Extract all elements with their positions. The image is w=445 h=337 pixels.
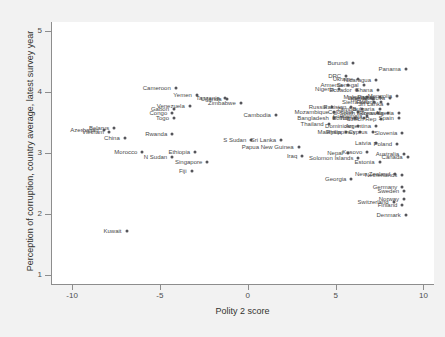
data-point-label: Solomon Islands [309,155,356,161]
data-point-marker [194,151,197,154]
data-point-marker [401,203,404,206]
data-point-marker [190,170,193,173]
data-point-marker [366,115,369,118]
x-tick-label: -10 [57,291,87,300]
data-point-marker [174,87,177,90]
scatter-chart-figure: 12345 -10-50510 BurundiPanamaDRCUkraineN… [0,0,445,337]
data-point-label: Sweden [377,188,402,194]
data-point-label: Morocco [114,149,140,155]
data-point-marker [239,102,242,105]
data-point-marker [397,112,400,115]
data-point-label: Singapore [175,159,205,165]
x-tick-mark [423,285,424,290]
data-point-marker [403,189,406,192]
data-point-label: Denmark [377,212,404,218]
y-tick-mark [45,214,51,215]
data-point-label: Kuwait [104,228,125,234]
data-point-label: China [104,135,123,141]
data-point-label: Netherlands [365,172,400,178]
data-point-label: Fiji [179,168,190,174]
data-point-label: Burundi [327,60,351,66]
data-point-label: S Sudan [223,137,249,143]
data-point-marker [301,155,304,158]
data-point-marker [107,131,110,134]
data-point-label: Papua New Guinea [242,144,297,150]
y-tick-mark [45,31,51,32]
y-axis-line [51,22,52,284]
data-point-marker [387,102,390,105]
data-point-marker [401,131,404,134]
y-tick-mark [45,275,51,276]
data-point-label: Bangladesh [297,115,332,121]
data-point-marker [280,138,283,141]
data-point-marker [396,142,399,145]
x-axis-title: Polity 2 score [51,306,434,316]
data-point-marker [188,105,191,108]
x-tick-label: 0 [233,291,263,300]
data-point-label: Estonia [355,159,378,165]
x-tick-label: -5 [145,291,175,300]
x-tick-mark [336,285,337,290]
data-point-label: Ecuador [329,87,354,93]
x-tick-label: 10 [408,291,438,300]
data-point-marker [406,156,409,159]
data-point-label: Sri Lanka [251,137,279,143]
data-point-marker [376,89,379,92]
data-point-marker [350,177,353,180]
data-point-label: Thailand [301,121,327,127]
data-point-marker [274,113,277,116]
data-point-marker [375,79,378,82]
data-point-label: Cyprus [348,129,370,135]
x-axis-line [51,284,434,285]
data-point-label: Slovenia [374,130,400,136]
data-point-marker [172,107,175,110]
x-tick-mark [248,285,249,290]
data-point-marker [404,213,407,216]
data-point-marker [172,116,175,119]
data-point-marker [403,198,406,201]
data-point-marker [378,161,381,164]
y-tick-mark [45,153,51,154]
data-point-marker [366,151,369,154]
data-point-label: Georgia [325,176,349,182]
data-point-marker [113,127,116,130]
data-point-label: Cameroon [143,85,174,91]
data-point-label: Zimbabwe [208,100,239,106]
data-point-marker [397,117,400,120]
data-point-label: Mozambique [294,109,331,115]
data-point-label: Guatemala [333,113,365,119]
data-point-label: Spain [379,115,397,121]
data-point-marker [123,136,126,139]
data-point-label: Latvia [355,140,374,146]
data-point-label: Togo [156,115,172,121]
data-point-label: Yemen [173,92,194,98]
data-point-label: Rwanda [145,131,170,137]
data-point-label: N Sudan [144,154,170,160]
data-point-label: Panama [379,66,404,72]
data-point-label: Poland [373,141,395,147]
x-tick-mark [72,285,73,290]
data-point-label: Canada [382,154,406,160]
data-point-label: Ghana [355,87,376,93]
data-point-marker [396,95,399,98]
data-point-marker [401,173,404,176]
data-point-label: Iraq [287,153,300,159]
data-point-marker [297,145,300,148]
data-point-marker [389,97,392,100]
x-tick-mark [160,285,161,290]
data-point-label: Argentina [345,123,374,129]
data-point-marker [206,161,209,164]
y-axis-title: Perception of corruption, country averag… [25,1,35,301]
data-point-marker [171,155,174,158]
x-tick-label: 5 [321,291,351,300]
data-point-label: Finland [378,202,401,208]
data-point-marker [404,67,407,70]
data-point-marker [171,133,174,136]
data-point-marker [352,61,355,64]
y-tick-mark [45,92,51,93]
data-point-marker [375,124,378,127]
data-point-label: Cambodia [244,112,274,118]
data-point-marker [125,229,128,232]
